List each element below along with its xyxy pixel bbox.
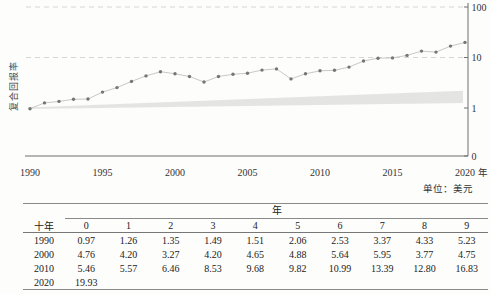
data-point <box>115 86 118 89</box>
table-cell: 3.27 <box>150 249 192 260</box>
table-col-header: 1 <box>107 220 149 231</box>
table-row: 202019.93 <box>23 275 488 289</box>
table-cell: 4.88 <box>276 249 318 260</box>
unit-note: 单位：美元 <box>423 181 473 195</box>
data-point <box>28 107 31 110</box>
table-col-header: 7 <box>361 220 403 231</box>
figure-page: 10010101990199520002005201020152020年 复合回… <box>0 0 491 294</box>
table-cell: 6.46 <box>150 263 192 274</box>
table-cell: 5.57 <box>107 263 149 274</box>
table-row-label: 1990 <box>23 235 65 246</box>
data-point <box>362 59 365 62</box>
shaded-band-group <box>28 91 463 109</box>
data-point <box>304 72 307 75</box>
y-tick-label: 0 <box>472 151 477 162</box>
table-col-header: 0 <box>65 220 107 231</box>
gridlines-group <box>26 7 468 58</box>
table-cell: 12.80 <box>403 263 445 274</box>
data-point <box>101 90 104 93</box>
data-point <box>275 67 278 70</box>
data-point <box>405 54 408 57</box>
y-tick-label: 100 <box>472 2 487 13</box>
axes-group <box>25 3 468 156</box>
x-tick-label: 2020 <box>455 167 475 178</box>
table-col-header: 5 <box>276 220 318 231</box>
table-cell: 2.53 <box>319 235 361 246</box>
table-cell: 9.82 <box>276 263 318 274</box>
table-cell: 10.99 <box>319 263 361 274</box>
table-cell: 1.49 <box>192 235 234 246</box>
data-point <box>86 97 89 100</box>
table-cell: 13.39 <box>361 263 403 274</box>
y-tick-label: 1 <box>472 103 477 114</box>
data-point <box>449 44 452 47</box>
data-point <box>202 80 205 83</box>
returns-table: 年 十年 0123456789 19900.971.261.351.491.51… <box>23 203 488 290</box>
table-col-header: 9 <box>446 220 488 231</box>
data-point <box>434 50 437 53</box>
x-tick-label: 2005 <box>238 167 258 178</box>
table-col-header: 2 <box>150 220 192 231</box>
table-cell: 19.93 <box>65 277 107 288</box>
data-point <box>347 65 350 68</box>
x-axis-title: 年 <box>478 167 488 178</box>
x-tick-label: 1990 <box>20 167 40 178</box>
table-row-label: 2010 <box>23 263 65 274</box>
table-header-row: 十年 0123456789 <box>23 218 488 233</box>
table-col-header: 3 <box>192 220 234 231</box>
data-point <box>130 80 133 83</box>
x-tick-label: 1995 <box>93 167 113 178</box>
data-point <box>391 56 394 59</box>
table-cell: 1.26 <box>107 235 149 246</box>
table-cell: 4.65 <box>234 249 276 260</box>
data-point <box>289 77 292 80</box>
x-tick-label: 2010 <box>310 167 330 178</box>
table-span-header: 年 <box>65 204 488 219</box>
data-point <box>246 72 249 75</box>
table-col-header: 6 <box>319 220 361 231</box>
table-cell: 5.64 <box>319 249 361 260</box>
x-tick-label: 2000 <box>165 167 185 178</box>
table-cell: 3.77 <box>403 249 445 260</box>
data-point <box>159 70 162 73</box>
table-col-header: 4 <box>234 220 276 231</box>
table-cell: 8.53 <box>192 263 234 274</box>
data-point <box>260 68 263 71</box>
table-cell: 16.83 <box>446 263 488 274</box>
table-cell: 4.33 <box>403 235 445 246</box>
table-cell: 4.20 <box>107 249 149 260</box>
table-cell: 4.75 <box>446 249 488 260</box>
data-point <box>57 100 60 103</box>
table-col-header: 8 <box>403 220 445 231</box>
table-row: 20105.465.576.468.539.689.8210.9913.3912… <box>23 261 488 275</box>
data-point <box>144 74 147 77</box>
compound-return-chart: 10010101990199520002005201020152020年 <box>0 0 491 200</box>
table-row: 20004.764.203.274.204.654.885.645.953.77… <box>23 247 488 261</box>
table-row-label: 2000 <box>23 249 65 260</box>
data-point <box>217 75 220 78</box>
table-row: 19900.971.261.351.491.512.062.533.374.33… <box>23 233 488 247</box>
table-cell: 2.06 <box>276 235 318 246</box>
table-cell: 1.35 <box>150 235 192 246</box>
data-point <box>72 98 75 101</box>
data-point <box>333 69 336 72</box>
data-point <box>376 57 379 60</box>
table-row-label: 2020 <box>23 277 65 288</box>
table-cell: 0.97 <box>65 235 107 246</box>
table-cell: 4.20 <box>192 249 234 260</box>
x-tick-label: 2015 <box>383 167 403 178</box>
y-axis-title: 复合回报率 <box>9 65 20 111</box>
table-row-header-title: 十年 <box>23 218 65 233</box>
y-tick-label: 10 <box>472 52 482 63</box>
table-cell: 1.51 <box>234 235 276 246</box>
table-cell: 5.95 <box>361 249 403 260</box>
data-point <box>231 73 234 76</box>
shaded-band <box>28 91 463 109</box>
table-body: 19900.971.261.351.491.512.062.533.374.33… <box>23 233 488 289</box>
table-cell: 9.68 <box>234 263 276 274</box>
data-point <box>318 69 321 72</box>
data-point <box>173 72 176 75</box>
table-cell: 3.37 <box>361 235 403 246</box>
data-point <box>463 41 466 44</box>
data-point <box>420 49 423 52</box>
